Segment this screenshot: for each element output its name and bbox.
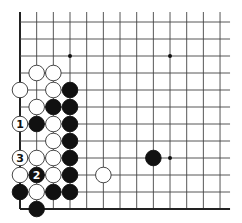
black-stone [62, 116, 78, 132]
white-stone-icon [46, 133, 62, 149]
white-stone [46, 167, 62, 183]
white-stone: 1 [12, 116, 28, 132]
black-stone-icon [62, 82, 78, 98]
black-stone [62, 82, 78, 98]
white-stone-icon [46, 167, 62, 183]
white-stone-icon [12, 82, 28, 98]
white-stone [96, 167, 112, 183]
go-board-diagram: 132 [0, 0, 242, 223]
white-stone-icon [29, 150, 45, 166]
white-stone-icon [46, 65, 62, 81]
black-stone-icon [46, 184, 62, 200]
white-stone [29, 99, 45, 115]
black-stone [29, 116, 45, 132]
white-stone-icon [46, 150, 62, 166]
black-stone-icon [146, 150, 162, 166]
black-stone [62, 167, 78, 183]
white-stone-icon [96, 167, 112, 183]
white-stone [12, 167, 28, 183]
white-stone: 3 [12, 150, 28, 166]
black-stone [12, 184, 28, 200]
white-stone-icon [29, 65, 45, 81]
star-point-icon [68, 54, 72, 58]
white-stone-icon [12, 167, 28, 183]
black-stone-icon [62, 99, 78, 115]
black-stone [62, 184, 78, 200]
black-stone-icon [62, 116, 78, 132]
move-number-label: 1 [16, 118, 24, 131]
white-stone [12, 82, 28, 98]
black-stone [62, 99, 78, 115]
go-board: 132 [0, 0, 242, 223]
black-stone-icon [29, 116, 45, 132]
black-stone-icon [62, 184, 78, 200]
black-stone [62, 133, 78, 149]
black-stone-icon [62, 167, 78, 183]
white-stone-icon [46, 116, 62, 132]
white-stone-icon [46, 82, 62, 98]
white-stone [46, 150, 62, 166]
white-stone [46, 65, 62, 81]
star-point-icon [168, 156, 172, 160]
black-stone [46, 184, 62, 200]
white-stone [29, 65, 45, 81]
white-stone [29, 150, 45, 166]
white-stone-icon [29, 184, 45, 200]
black-stone [62, 150, 78, 166]
black-stone-icon [46, 99, 62, 115]
black-stone [46, 99, 62, 115]
move-number-label: 3 [16, 152, 24, 165]
black-stone [29, 201, 45, 217]
black-stone-icon [12, 184, 28, 200]
black-stone-icon [29, 201, 45, 217]
white-stone [46, 82, 62, 98]
white-stone [46, 133, 62, 149]
move-number-label: 2 [33, 169, 41, 182]
white-stone [46, 116, 62, 132]
white-stone [29, 184, 45, 200]
white-stone-icon [29, 99, 45, 115]
black-stone [146, 150, 162, 166]
black-stone-icon [62, 150, 78, 166]
black-stone-icon [62, 133, 78, 149]
star-point-icon [168, 54, 172, 58]
black-stone: 2 [29, 167, 45, 183]
